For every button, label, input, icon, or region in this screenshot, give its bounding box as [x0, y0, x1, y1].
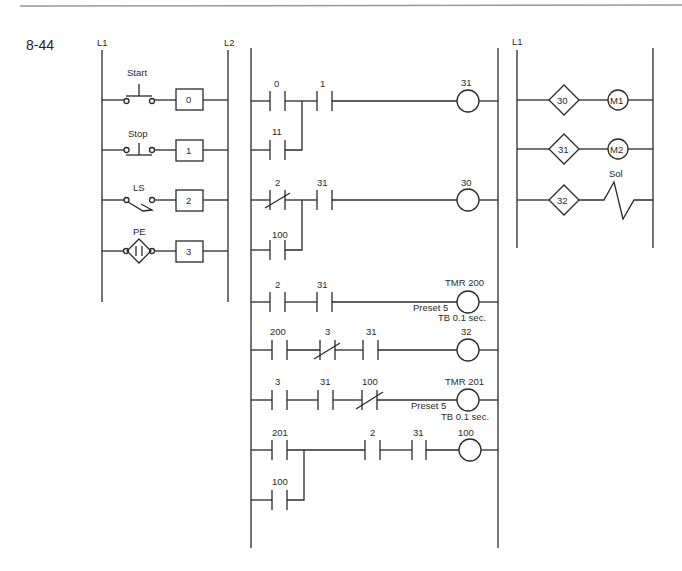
input-panel: L1 L2 Start 0 Stop 1 — [97, 37, 235, 302]
timer-coil-icon — [457, 291, 479, 313]
output-rung-sol: Sol 32 — [517, 168, 653, 219]
output-address: 31 — [558, 144, 569, 155]
top-rule — [20, 5, 682, 6]
input-address: 0 — [186, 94, 191, 105]
contact-label: 2 — [275, 177, 280, 188]
device-label: Start — [127, 67, 147, 78]
coil-icon — [459, 439, 481, 461]
ladder-diagram-figure: 8-44 L1 L2 Start 0 Stop — [0, 0, 682, 571]
contact-label: 0 — [274, 78, 279, 89]
input-address: 1 — [186, 145, 191, 156]
input-address: 2 — [186, 195, 191, 206]
input-address: 3 — [186, 246, 191, 257]
contact-label: 11 — [272, 126, 282, 137]
output-rung-m2: 31 M2 — [517, 134, 653, 164]
contact-label: 201 — [272, 427, 288, 438]
output-address: 32 — [557, 195, 568, 206]
contact-label: 31 — [317, 279, 328, 290]
ladder-program: 0 1 11 31 2 31 100 30 — [251, 48, 498, 548]
contact-label: 31 — [366, 326, 377, 337]
ladder-rung-6: 201 2 31 100 100 — [251, 427, 498, 510]
contact-label: 31 — [317, 177, 328, 188]
rail-label-l2: L2 — [224, 37, 235, 48]
ladder-rung-5: 3 31 100 TMR 201 Preset 5 TB 0.1 sec. — [251, 376, 498, 422]
input-rung-pe: PE 3 — [102, 226, 228, 263]
contact-label: 100 — [272, 229, 288, 240]
contact-label: 31 — [413, 427, 424, 438]
input-rung-stop: Stop 1 — [102, 128, 228, 161]
timer-coil-icon — [457, 389, 479, 411]
solenoid-icon — [579, 182, 653, 219]
output-address: 30 — [557, 95, 568, 106]
device-label: LS — [133, 182, 145, 193]
device-label: Stop — [128, 128, 148, 139]
figure-number: 8-44 — [26, 37, 54, 53]
contact-label: 1 — [320, 78, 325, 89]
coil-icon — [457, 90, 479, 112]
load-label: Sol — [609, 168, 623, 179]
contact-label: 3 — [325, 326, 330, 337]
ladder-rung-3: 2 31 TMR 200 Preset 5 TB 0.1 sec. — [251, 277, 498, 323]
coil-label: 100 — [458, 427, 474, 438]
ladder-rung-1: 0 1 11 31 — [251, 77, 498, 160]
coil-icon — [457, 339, 479, 361]
photo-eye-icon — [127, 239, 151, 263]
timer-preset: Preset 5 — [411, 400, 446, 411]
output-panel: L1 30 M1 31 M2 Sol 32 — [512, 36, 653, 248]
contact-label: 2 — [275, 279, 280, 290]
ladder-rung-4: 200 3 31 32 — [251, 326, 498, 361]
timer-timebase: TB 0.1 sec. — [441, 411, 489, 422]
load-label: M2 — [610, 144, 623, 155]
output-rung-m1: 30 M1 — [517, 85, 653, 115]
input-rung-ls: LS 2 — [102, 182, 228, 211]
timer-timebase: TB 0.1 sec. — [438, 312, 486, 323]
contact-label: 100 — [362, 376, 378, 387]
contact-label: 100 — [272, 476, 288, 487]
coil-label: 31 — [461, 77, 472, 88]
timer-label: TMR 201 — [445, 376, 484, 387]
rail-label-l1: L1 — [97, 37, 108, 48]
pushbutton-nc-icon — [124, 148, 129, 153]
input-rung-start: Start 0 — [102, 67, 228, 110]
contact-label: 3 — [275, 376, 280, 387]
coil-label: 30 — [461, 177, 472, 188]
ladder-rung-2: 2 31 100 30 — [251, 177, 498, 260]
contact-label: 31 — [320, 376, 331, 387]
contact-label: 200 — [270, 326, 286, 337]
load-label: M1 — [610, 95, 623, 106]
rail-label-l1: L1 — [512, 36, 523, 47]
contact-label: 2 — [370, 427, 375, 438]
pushbutton-no-icon — [124, 99, 129, 104]
coil-label: 32 — [461, 326, 472, 337]
timer-label: TMR 200 — [445, 277, 484, 288]
coil-icon — [457, 189, 479, 211]
device-label: PE — [133, 226, 146, 237]
